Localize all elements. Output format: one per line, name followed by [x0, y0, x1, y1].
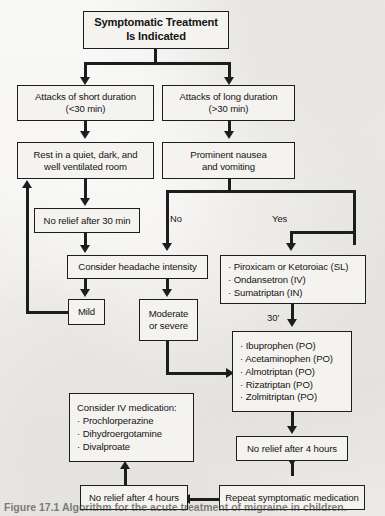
node-short-duration-line2: (<30 min) [66, 103, 106, 115]
node-no-relief-4hours-right[interactable]: No relief after 4 hours [236, 436, 348, 461]
iv-med-item: · Dihydroergotamine [77, 428, 162, 441]
med-item: · Zolmitriptan (PO) [240, 391, 317, 404]
edge-start-bus [84, 62, 231, 65]
edge-nausea-no-branch [166, 190, 169, 245]
edge-moderate-down [166, 340, 169, 374]
edge-label-no: No [170, 213, 182, 224]
arrowhead-to-norelief30 [80, 198, 90, 206]
arrowhead-to-moderate [162, 289, 172, 297]
iv-med-heading: Consider IV medication: [77, 402, 177, 415]
node-nausea-line1: Prominent nausea [190, 149, 266, 161]
med-item: · Sumatriptan (IN) [228, 286, 302, 299]
node-start[interactable]: Symptomatic Treatment Is Indicated [83, 11, 229, 49]
node-no-relief-30min-label: No relief after 30 min [44, 215, 131, 227]
node-short-duration[interactable]: Attacks of short duration (<30 min) [17, 85, 154, 121]
node-oral-medications[interactable]: · Ibuprophen (PO) · Acetaminophen (PO) ·… [232, 331, 352, 412]
node-long-duration[interactable]: Attacks of long duration (>30 min) [162, 85, 295, 121]
node-moderate-line2: or severe [149, 320, 188, 332]
node-long-duration-line2: (>30 min) [209, 103, 249, 115]
med-item: · Acetaminophen (PO) [240, 352, 333, 365]
edge-label-yes: Yes [272, 213, 287, 224]
arrowhead-30min [287, 319, 297, 327]
node-short-duration-line1: Attacks of short duration [35, 91, 136, 103]
iv-med-item: · Divalproate [77, 440, 130, 453]
node-nausea-line2: and vomiting [202, 161, 255, 173]
node-no-relief-4hours-right-label: No relief after 4 hours [247, 443, 337, 455]
arrowhead-to-mild [80, 289, 90, 297]
node-mild-label: Mild [78, 306, 95, 318]
node-rest-line1: Rest in a quiet, dark, and [33, 149, 137, 161]
arrowhead-loop-to-rest [22, 180, 32, 188]
med-item: · Almotriptan (PO) [240, 365, 315, 378]
node-long-duration-line1: Attacks of long duration [180, 91, 278, 103]
iv-med-item: · Prochlorperazine [77, 415, 154, 428]
edge-mild-loop-v [26, 188, 29, 314]
flowchart-canvas: Symptomatic Treatment Is Indicated Attac… [0, 0, 385, 516]
arrowhead-to-nausea [224, 131, 234, 139]
node-start-line2: Is Indicated [126, 30, 186, 44]
arrowhead-to-intensity [80, 245, 90, 253]
edge-moderate-right [166, 372, 228, 375]
node-iv-medications[interactable]: Consider IV medication: · Prochlorperazi… [69, 393, 194, 462]
node-mild[interactable]: Mild [68, 299, 105, 325]
edge-rest-to-norelief30 [84, 178, 87, 199]
edge-start-stem [154, 48, 157, 63]
node-start-line1: Symptomatic Treatment [94, 16, 218, 30]
node-consider-intensity-label: Consider headache intensity [78, 261, 196, 273]
node-moderate-line1: Moderate [149, 308, 189, 320]
node-no-relief-30min[interactable]: No relief after 30 min [34, 208, 140, 233]
edge-yes-to-meds-jog [290, 231, 356, 234]
node-rest[interactable]: Rest in a quiet, dark, and well ventilat… [17, 142, 154, 179]
arrowhead-to-short-duration [80, 77, 90, 85]
node-antiemetic-medications[interactable]: · Piroxicam or Ketoroiac (SL) · Ondanset… [220, 255, 366, 304]
edge-mild-loop-h [26, 311, 70, 314]
arrowhead-branch-no [162, 243, 172, 251]
med-item: · Ondansetron (IV) [228, 273, 306, 286]
med-item: · Piroxicam or Ketoroiac (SL) [228, 260, 348, 273]
node-rest-line2: well ventilated room [44, 161, 127, 173]
edge-yes-to-meds-drop [290, 231, 293, 245]
arrowhead-to-norelief4h-right [287, 426, 297, 434]
node-consider-intensity[interactable]: Consider headache intensity [67, 255, 208, 279]
node-nausea[interactable]: Prominent nausea and vomiting [162, 142, 295, 179]
med-item: · Rizatriptan (PO) [240, 378, 313, 391]
arrowhead-to-long-duration [224, 77, 234, 85]
edge-nausea-yes-branch [353, 190, 356, 245]
arrowhead-to-iv-meds [120, 461, 130, 469]
node-moderate-or-severe[interactable]: Moderate or severe [139, 299, 198, 341]
med-item: · Ibuprophen (PO) [240, 339, 316, 352]
edge-label-30min: 30' [267, 312, 279, 323]
edge-nausea-bus [166, 190, 356, 193]
arrowhead-to-rest [80, 131, 90, 139]
figure-caption: Figure 17.1 Algorithm for the acute trea… [4, 501, 382, 516]
